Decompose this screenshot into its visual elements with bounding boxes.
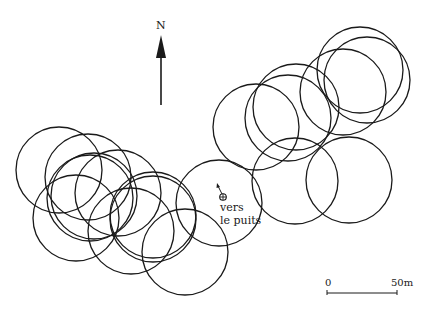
scale-end-label: 50m bbox=[391, 278, 413, 288]
site-circle bbox=[176, 160, 262, 246]
site-circle bbox=[142, 209, 228, 295]
site-circle bbox=[88, 188, 174, 274]
well-label-line1: vers bbox=[220, 202, 244, 213]
well-label-line2: le puits bbox=[220, 215, 261, 226]
north-arrow-icon bbox=[156, 35, 166, 105]
north-label: N bbox=[156, 20, 166, 31]
scale-bar bbox=[327, 290, 397, 295]
site-circle bbox=[253, 64, 339, 150]
site-circle bbox=[324, 37, 410, 123]
well-cross-circle-icon bbox=[217, 183, 227, 200]
site-circle bbox=[110, 172, 196, 258]
site-circle bbox=[252, 138, 338, 224]
circle-group bbox=[16, 27, 410, 295]
site-circle bbox=[317, 27, 403, 113]
site-circle bbox=[47, 155, 133, 241]
site-map bbox=[0, 0, 429, 316]
site-circle bbox=[213, 84, 299, 170]
scale-start-label: 0 bbox=[325, 278, 331, 288]
site-circle bbox=[306, 137, 392, 223]
